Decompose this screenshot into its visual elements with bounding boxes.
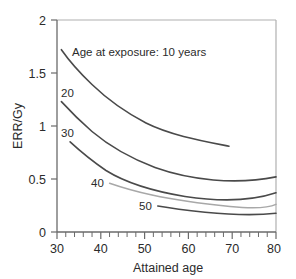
y-tick-label-1-5: 1.5 [29,67,46,81]
curve-label-30: 30 [61,127,74,139]
err-gy-vs-attained-age-chart: 2 1.5 1 0.5 0 30 40 50 60 70 80 Attained… [0,0,296,279]
y-tick-label-0: 0 [39,226,46,240]
y-tick-label-0-5: 0.5 [29,173,46,187]
x-tick-label-40: 40 [94,242,108,256]
x-tick-label-60: 60 [181,242,195,256]
x-tick-label-70: 70 [225,242,239,256]
chart-annotation: Age at exposure: 10 years [72,46,206,58]
curve-label-40: 40 [91,177,104,189]
y-axis-title: ERR/Gy [11,102,25,149]
x-tick-label-50: 50 [138,242,152,256]
curve-label-20: 20 [61,87,74,99]
chart-figure: 2 1.5 1 0.5 0 30 40 50 60 70 80 Attained… [0,0,296,279]
y-tick-label-1: 1 [39,120,46,134]
x-axis-title: Attained age [133,261,203,275]
x-tick-label-30: 30 [50,242,64,256]
y-tick-label-2: 2 [39,14,46,28]
curve-label-50: 50 [139,200,152,212]
x-tick-label-80: 80 [267,242,281,256]
